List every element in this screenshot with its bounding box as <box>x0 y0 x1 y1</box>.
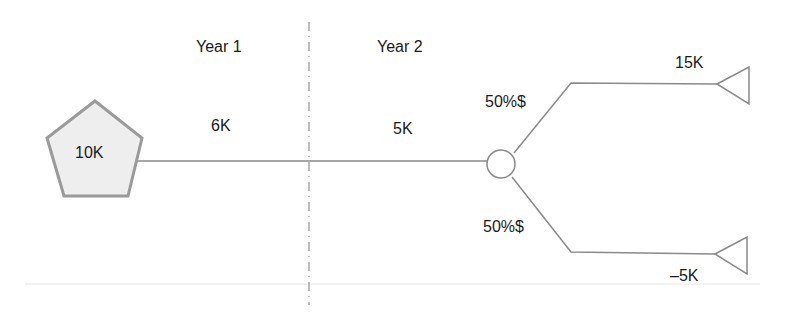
upper-outcome-value: 15K <box>675 54 703 72</box>
lower-terminal-triangle <box>715 237 747 274</box>
upper-branch-line <box>514 83 717 153</box>
lower-branch-line <box>512 177 715 254</box>
cash-flow-year-1: 6K <box>211 117 231 135</box>
lower-outcome-value: –5K <box>670 267 698 285</box>
chance-node-circle <box>487 150 515 178</box>
upper-terminal-triangle <box>717 67 749 104</box>
lower-branch-probability: 50%$ <box>483 218 524 236</box>
root-node-value: 10K <box>75 144 103 162</box>
cash-flow-year-2: 5K <box>393 120 413 138</box>
period-label-year-2: Year 2 <box>377 38 423 56</box>
period-label-year-1: Year 1 <box>196 38 242 56</box>
upper-branch-probability: 50%$ <box>485 93 526 111</box>
